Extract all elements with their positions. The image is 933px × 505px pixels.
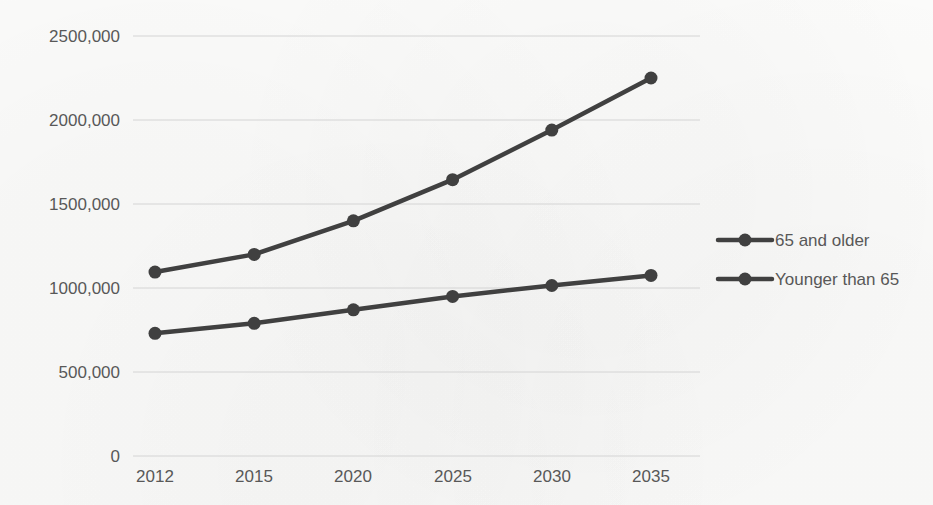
y-tick-label: 2000,000 — [49, 111, 120, 130]
y-tick-label: 500,000 — [59, 363, 120, 382]
legend-item-label: Younger than 65 — [775, 270, 899, 289]
x-tick-label: 2030 — [533, 467, 571, 486]
data-point-marker — [248, 248, 261, 261]
data-point-marker — [545, 279, 558, 292]
y-tick-label: 1000,000 — [49, 279, 120, 298]
data-point-marker — [446, 290, 459, 303]
data-point-marker — [446, 173, 459, 186]
data-point-marker — [149, 327, 162, 340]
series-line — [155, 275, 651, 333]
data-point-marker — [347, 214, 360, 227]
series-younger-than-65 — [149, 269, 658, 340]
chart-legend: 65 and older Younger than 65 — [718, 231, 899, 289]
x-tick-label: 2025 — [434, 467, 472, 486]
y-tick-label: 2500,000 — [49, 27, 120, 46]
y-tick-label: 0 — [111, 447, 120, 466]
x-axis-tick-labels: 2012 2015 2020 2025 2030 2035 — [136, 467, 670, 486]
data-point-marker — [545, 124, 558, 137]
x-tick-label: 2012 — [136, 467, 174, 486]
x-tick-label: 2015 — [235, 467, 273, 486]
series-line — [155, 78, 651, 272]
series-layer — [149, 72, 658, 340]
data-point-marker — [248, 317, 261, 330]
legend-item-younger-than-65[interactable]: Younger than 65 — [718, 270, 899, 289]
data-point-marker — [645, 72, 658, 85]
legend-item-label: 65 and older — [775, 231, 870, 250]
legend-item-65-and-older[interactable]: 65 and older — [718, 231, 870, 250]
series-65-and-older — [149, 72, 658, 279]
y-axis-tick-labels: 2500,000 2000,000 1500,000 1000,000 500,… — [49, 27, 120, 466]
data-point-marker — [149, 266, 162, 279]
y-tick-label: 1500,000 — [49, 195, 120, 214]
data-point-marker — [347, 303, 360, 316]
x-tick-label: 2020 — [334, 467, 372, 486]
line-chart: 2500,000 2000,000 1500,000 1000,000 500,… — [0, 0, 933, 505]
data-point-marker — [645, 269, 658, 282]
legend-marker-dot-icon — [739, 234, 752, 247]
legend-marker-dot-icon — [739, 273, 752, 286]
x-tick-label: 2035 — [632, 467, 670, 486]
